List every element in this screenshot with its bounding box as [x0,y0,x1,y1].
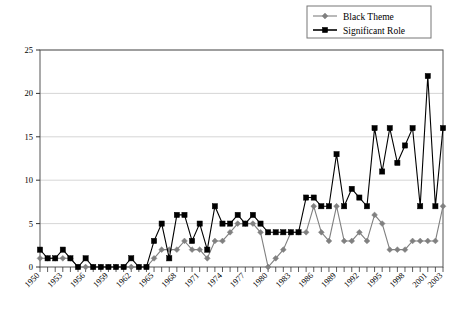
x-tick-label-1968: 1968 [159,270,178,289]
data-point [395,160,400,165]
data-point [304,195,309,200]
data-point [440,126,445,131]
data-point [205,247,210,252]
data-point [425,73,430,78]
data-point [311,203,317,209]
data-point [212,204,217,209]
data-point [113,264,118,269]
x-tick-label-1992: 1992 [342,270,361,289]
data-point [227,221,232,226]
y-tick-label-5: 5 [29,219,33,229]
data-point [235,212,240,217]
x-tick-label-1956: 1956 [68,270,87,289]
x-tick-label-1950: 1950 [22,270,41,289]
data-point [357,195,362,200]
series-black-theme [37,203,446,270]
data-point [364,204,369,209]
series-significant-role [37,73,445,269]
x-tick-label-1959: 1959 [91,270,110,289]
y-tick-label-10: 10 [25,175,34,185]
legend-marker-1 [322,27,327,32]
data-point [402,143,407,148]
data-point [197,221,202,226]
data-point [129,256,134,261]
data-point [144,264,149,269]
chart-container: 0510152025195019531956195919621965196819… [0,0,459,309]
data-point [341,238,347,244]
x-tick-label-1983: 1983 [273,270,292,289]
data-point [433,204,438,209]
data-point [212,238,218,244]
x-tick-label-1986: 1986 [296,270,315,289]
plot-frame [40,50,443,267]
data-point [303,229,309,235]
data-point [83,256,88,261]
y-tick-label-20: 20 [25,88,34,98]
x-tick-label-1965: 1965 [136,270,155,289]
data-point [273,230,278,235]
data-point [83,264,89,270]
series-line [40,206,443,267]
data-point [258,221,263,226]
data-point [128,264,134,270]
data-point [372,126,377,131]
x-axis: 1950195319561959196219651968197119741977… [22,267,444,289]
legend-label-1: Significant Role [343,26,405,36]
x-tick-label-2001: 2001 [410,270,429,289]
y-axis: 0510152025 [25,45,41,272]
x-tick-label-1953: 1953 [45,270,64,289]
x-tick-label-1989: 1989 [319,270,338,289]
data-point [334,152,339,157]
data-point [432,238,438,244]
data-point [281,230,286,235]
gridlines [40,50,443,224]
data-point [182,212,187,217]
data-point [418,204,423,209]
data-point [220,221,225,226]
data-point [387,247,393,253]
y-tick-label-0: 0 [29,262,33,272]
data-point [266,230,271,235]
x-tick-label-1962: 1962 [114,270,133,289]
legend: Black ThemeSignificant Role [307,6,431,38]
x-tick-label-1971: 1971 [182,270,201,289]
data-point [319,204,324,209]
y-tick-label-25: 25 [25,45,34,55]
data-point [425,238,431,244]
data-point [243,221,248,226]
data-point [37,247,42,252]
plot-border [40,50,443,267]
x-tick-label-1980: 1980 [250,270,269,289]
data-point [334,203,340,209]
data-point [326,204,331,209]
data-point [136,264,141,269]
x-tick-label-1998: 1998 [387,270,406,289]
data-point [106,264,111,269]
data-point [440,203,446,209]
x-tick-label-1977: 1977 [228,270,247,289]
data-point [167,256,172,261]
data-point [37,255,43,261]
data-point [189,238,194,243]
data-point [121,264,126,269]
data-point [60,247,65,252]
data-point [91,264,96,269]
data-point [410,126,415,131]
legend-label-0: Black Theme [343,12,394,22]
data-point [68,256,73,261]
data-point [60,255,66,261]
data-point [349,186,354,191]
data-point [296,230,301,235]
line-chart: 0510152025195019531956195919621965196819… [0,0,459,309]
data-point [288,230,293,235]
data-point [75,264,80,269]
data-point [53,256,58,261]
data-point [380,169,385,174]
data-point [98,264,103,269]
x-tick-label-1974: 1974 [205,270,225,290]
data-point [342,204,347,209]
data-point [159,221,164,226]
x-tick-label-2003: 2003 [425,270,444,289]
data-point [45,256,50,261]
data-point [387,126,392,131]
